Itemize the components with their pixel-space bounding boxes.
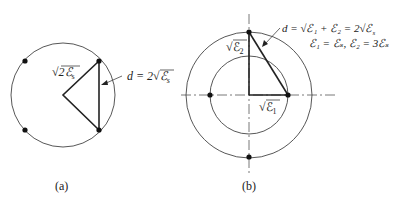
signal-point <box>96 58 101 63</box>
distance-label-a: d = 2√ℰs <box>127 69 170 85</box>
diagram-canvas: √2ℰs d = 2√ℰs (a) √ℰ2 √ℰ1 d = √ℰ₁ + ℰ₂ =… <box>0 0 402 203</box>
equation-line-1: d = √ℰ₁ + ℰ₂ = 2√ℰs <box>282 22 376 37</box>
signal-point <box>246 154 251 159</box>
signal-point <box>285 92 290 97</box>
signal-point <box>22 58 27 63</box>
diagram-a: √2ℰs d = 2√ℰs (a) <box>11 43 174 193</box>
label-e1: √ℰ1 <box>259 100 277 116</box>
signal-point <box>246 29 251 34</box>
label-e2: √ℰ2 <box>226 40 244 56</box>
signal-point <box>207 92 212 97</box>
equation-line-2: ℰ₁ = ℰₛ, ℰ₂ = 3ℰₛ <box>309 37 389 49</box>
signal-point <box>96 127 101 132</box>
arrow-line-b <box>265 28 280 44</box>
caption-b: (b) <box>242 179 256 193</box>
arrow-head-icon <box>101 80 108 85</box>
signal-point <box>22 127 27 132</box>
radius-label-a: √2ℰs <box>52 65 75 81</box>
diagram-b: √ℰ2 √ℰ1 d = √ℰ₁ + ℰ₂ = 2√ℰs ℰ₁ = ℰₛ, ℰ₂ … <box>181 14 389 193</box>
caption-a: (a) <box>55 179 68 193</box>
arrow-head-icon <box>262 40 268 47</box>
